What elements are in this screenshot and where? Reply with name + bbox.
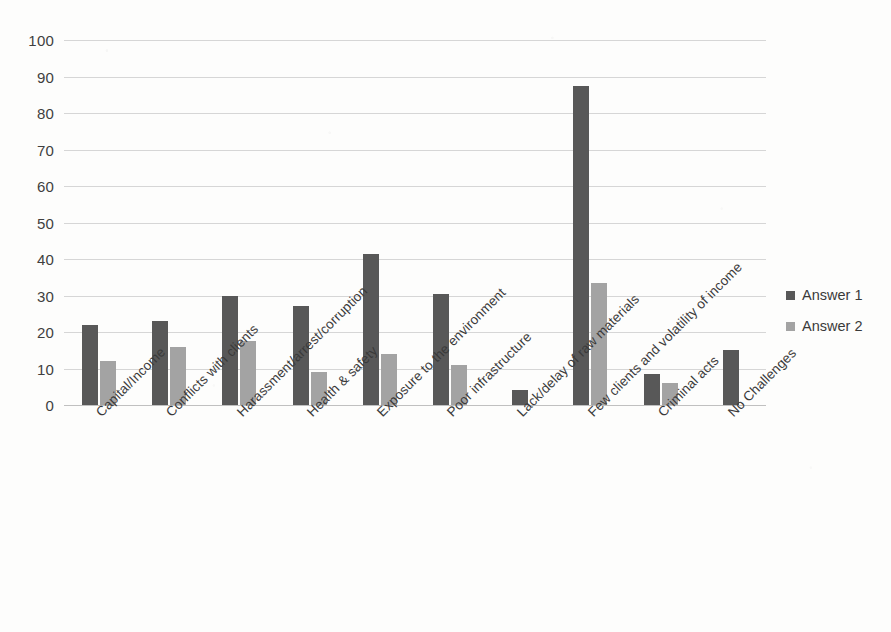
chart-legend: Answer 1Answer 2 [786,287,862,334]
y-axis-tick: 40 [37,251,54,268]
legend-item[interactable]: Answer 1 [786,287,862,303]
y-axis-tick: 100 [28,32,54,49]
y-axis-tick: 0 [45,397,54,414]
y-axis-tick: 20 [37,324,54,341]
bar-group [345,40,415,405]
bar-group [134,40,204,405]
y-axis-tick: 50 [37,214,54,231]
legend-label: Answer 1 [802,287,862,303]
y-axis-tick: 10 [37,360,54,377]
bar-group [696,40,766,405]
legend-swatch-answer-1-icon [786,291,795,300]
bar-answer-1 [82,325,98,405]
bar-answer-1 [363,254,379,405]
y-axis-tick: 60 [37,178,54,195]
bar-chart: 1009080706050403020100 Capital/IncomeCon… [0,0,891,632]
bar-answer-1 [644,374,660,405]
legend-swatch-answer-2-icon [786,322,795,331]
legend-label: Answer 2 [802,318,862,334]
legend-item[interactable]: Answer 2 [786,318,862,334]
bar-group [64,40,134,405]
y-axis: 1009080706050403020100 [0,0,64,632]
y-axis-tick: 80 [37,105,54,122]
y-axis-tick: 90 [37,68,54,85]
y-axis-tick: 30 [37,287,54,304]
x-axis-labels: Capital/IncomeConflicts with clientsHara… [64,409,766,609]
y-axis-tick: 70 [37,141,54,158]
